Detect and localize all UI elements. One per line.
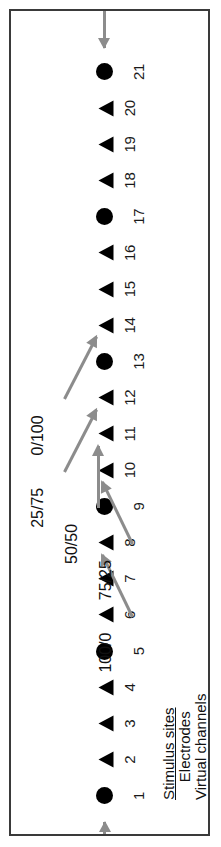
figure-frame: 123456789101112131415161718192021 Apical… bbox=[9, 9, 210, 836]
site-number: 13 bbox=[130, 349, 147, 375]
virtual-channel-marker bbox=[99, 607, 114, 623]
site-number: 2 bbox=[121, 747, 138, 773]
legend-item-electrodes: Electrodes bbox=[177, 694, 193, 800]
site-number: 21 bbox=[130, 59, 147, 85]
site-number: 3 bbox=[121, 711, 138, 737]
virtual-channel-marker bbox=[99, 100, 114, 116]
virtual-channel-marker bbox=[99, 281, 114, 297]
virtual-channel-marker bbox=[99, 752, 114, 768]
virtual-channel-marker bbox=[99, 173, 114, 189]
site-number: 4 bbox=[121, 674, 138, 700]
legend-title: Stimulus sites bbox=[161, 694, 177, 800]
stimulus-ratio-arrow bbox=[63, 409, 98, 472]
electrode-marker bbox=[96, 788, 113, 805]
end-arrow-basal bbox=[103, 9, 106, 48]
site-number: 18 bbox=[121, 168, 138, 194]
stimulus-ratio-arrow bbox=[97, 446, 100, 508]
site-number: 9 bbox=[130, 493, 147, 519]
stimulus-ratio-arrow bbox=[63, 337, 98, 400]
site-number: 15 bbox=[121, 276, 138, 302]
site-number: 14 bbox=[121, 312, 138, 338]
site-number: 7 bbox=[121, 566, 138, 592]
site-number: 19 bbox=[121, 131, 138, 157]
virtual-channel-marker bbox=[99, 535, 114, 551]
stimulus-ratio-label: 0/100 bbox=[29, 415, 47, 455]
legend-item-virtual-channels: Virtual channels bbox=[193, 694, 209, 800]
stimulus-ratio-label: 75/25 bbox=[97, 560, 115, 600]
virtual-channel-marker bbox=[99, 716, 114, 732]
site-number: 17 bbox=[130, 204, 147, 230]
electrode-marker bbox=[96, 64, 113, 81]
site-number: 20 bbox=[121, 95, 138, 121]
virtual-channel-marker bbox=[99, 426, 114, 442]
stimulus-ratio-label: 25/75 bbox=[29, 488, 47, 528]
site-number: 12 bbox=[121, 385, 138, 411]
end-arrow-apical bbox=[103, 822, 106, 836]
electrode-marker bbox=[96, 353, 113, 370]
virtual-channel-marker bbox=[99, 390, 114, 406]
site-number: 5 bbox=[130, 638, 147, 664]
stimulus-ratio-label: 100/0 bbox=[97, 633, 115, 673]
electrode-marker bbox=[96, 208, 113, 225]
figure-stage: 123456789101112131415161718192021 Apical… bbox=[11, 11, 208, 834]
virtual-channel-marker bbox=[99, 245, 114, 261]
stimulus-ratio-label: 50/50 bbox=[63, 524, 81, 564]
site-number: 11 bbox=[121, 421, 138, 447]
site-number: 16 bbox=[121, 240, 138, 266]
legend: Stimulus sites Electrodes Virtual channe… bbox=[161, 694, 208, 800]
site-number: 10 bbox=[121, 457, 138, 483]
site-number: 1 bbox=[130, 783, 147, 809]
virtual-channel-marker bbox=[99, 462, 114, 478]
virtual-channel-marker bbox=[99, 679, 114, 695]
virtual-channel-marker bbox=[99, 317, 114, 333]
virtual-channel-marker bbox=[99, 136, 114, 152]
